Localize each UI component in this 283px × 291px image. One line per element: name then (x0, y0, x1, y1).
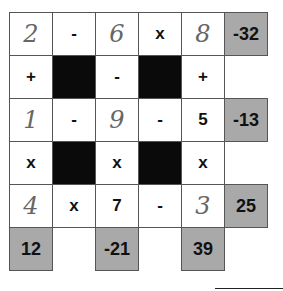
math-puzzle-grid: 2 - 6 x 8 -32 + - + 1 - 9 - 5 -13 x x x … (9, 12, 267, 270)
cell-r2c5: + (181, 55, 225, 99)
grid-row-5: 4 x 7 - 3 25 (9, 184, 267, 227)
grid-row-4: x x x (9, 141, 267, 184)
blocked-cell (52, 55, 96, 99)
cell-r3c4: - (138, 98, 182, 142)
blocked-cell (52, 141, 96, 185)
cell-r1c2: - (52, 12, 96, 56)
cell-r1c3[interactable]: 6 (95, 12, 139, 56)
empty-cell (224, 227, 268, 271)
empty-cell (224, 55, 268, 99)
cell-r3c2: - (52, 98, 96, 142)
row-result-1: -32 (224, 12, 268, 56)
cell-r4c1: x (9, 141, 53, 185)
row-result-5: 25 (224, 184, 268, 228)
grid-row-3: 1 - 9 - 5 -13 (9, 98, 267, 141)
grid-row-1: 2 - 6 x 8 -32 (9, 12, 267, 55)
cell-r2c3: - (95, 55, 139, 99)
grid-row-2: + - + (9, 55, 267, 98)
blocked-cell (138, 55, 182, 99)
divider-line (215, 288, 283, 289)
column-results-row: 12 -21 39 (9, 227, 267, 270)
col-result-1: 12 (9, 227, 53, 271)
cell-r3c3[interactable]: 9 (95, 98, 139, 142)
cell-r5c3: 7 (95, 184, 139, 228)
cell-r5c1[interactable]: 4 (9, 184, 53, 228)
cell-r2c1: + (9, 55, 53, 99)
cell-r5c2: x (52, 184, 96, 228)
cell-r4c5: x (181, 141, 225, 185)
blocked-cell (138, 141, 182, 185)
empty-cell (138, 227, 182, 271)
cell-r3c1[interactable]: 1 (9, 98, 53, 142)
cell-r3c5: 5 (181, 98, 225, 142)
cell-r1c4: x (138, 12, 182, 56)
empty-cell (52, 227, 96, 271)
col-result-3: -21 (95, 227, 139, 271)
row-result-3: -13 (224, 98, 268, 142)
cell-r1c5[interactable]: 8 (181, 12, 225, 56)
empty-cell (224, 141, 268, 185)
col-result-5: 39 (181, 227, 225, 271)
cell-r5c5[interactable]: 3 (181, 184, 225, 228)
cell-r1c1[interactable]: 2 (9, 12, 53, 56)
cell-r5c4: - (138, 184, 182, 228)
cell-r4c3: x (95, 141, 139, 185)
